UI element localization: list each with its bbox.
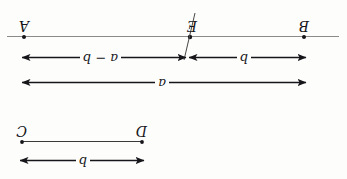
point-label-e: E xyxy=(187,19,197,33)
point-dot-c xyxy=(20,140,24,144)
measure-label-a-total: a xyxy=(155,77,169,90)
measure-label-b-left: b xyxy=(237,52,251,65)
point-label-a: A xyxy=(19,19,29,33)
point-dot-b xyxy=(302,35,306,39)
lower-diagram-group xyxy=(7,13,339,83)
rotated-figure-group: b D C a b a − b B E A xyxy=(0,0,347,179)
point-dot-a xyxy=(22,35,26,39)
point-label-d: D xyxy=(136,124,147,138)
point-label-c: C xyxy=(16,124,27,138)
point-label-b: B xyxy=(299,19,309,33)
point-dot-d xyxy=(140,140,144,144)
measure-label-a-minus-b: a − b xyxy=(80,52,121,65)
figure-vector-layer xyxy=(0,0,347,179)
measure-label-b-upper: b xyxy=(76,155,90,168)
figure-canvas: b D C a b a − b B E A xyxy=(0,0,347,179)
